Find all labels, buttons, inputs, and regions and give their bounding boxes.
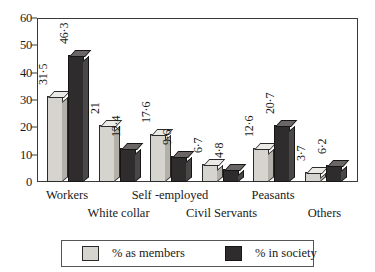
legend-swatch-dark xyxy=(225,246,242,261)
bar-group: 31·546·3 xyxy=(47,18,91,182)
bar-group: 12·620·7 xyxy=(253,18,297,182)
bar-item: 12·4 xyxy=(120,148,144,182)
bar-society xyxy=(68,55,84,182)
category-label: Peasants xyxy=(251,189,294,202)
legend-label: % as members xyxy=(112,247,185,260)
bar-group: 6·74·8 xyxy=(202,18,246,182)
bars-layer: 31·546·32112·417·69·66·74·812·620·73·76·… xyxy=(37,18,358,182)
bar-value-label: 6·7 xyxy=(192,137,204,152)
bar-value-label: 3·7 xyxy=(295,145,307,160)
bar-item: 4·8 xyxy=(223,169,247,182)
bar-value-label: 17·6 xyxy=(140,102,152,123)
bar-item: 6·2 xyxy=(326,165,350,182)
category-label: Civil Servants xyxy=(186,207,257,220)
category-label: Others xyxy=(308,207,341,220)
bar-value-label: 12·4 xyxy=(110,116,122,137)
bar-item: 9·6 xyxy=(171,156,195,182)
bar-members xyxy=(305,172,321,182)
bar-value-label: 46·3 xyxy=(58,23,70,44)
bar-side-face xyxy=(341,166,347,182)
legend-entry: % as members xyxy=(82,246,185,261)
bar-society xyxy=(171,156,187,182)
bar-members xyxy=(253,148,269,182)
bar-side-face xyxy=(83,56,89,182)
bar-side-face xyxy=(186,157,192,182)
bar-group: 2112·4 xyxy=(99,18,143,182)
y-axis: 0102030405060 xyxy=(0,0,37,200)
bar-value-label: 12·6 xyxy=(243,115,255,136)
category-label: White collar xyxy=(87,207,149,220)
bar-side-face xyxy=(238,170,244,182)
bar-chart: 0102030405060 31·546·32112·417·69·66·74·… xyxy=(0,0,375,272)
bar-group: 17·69·6 xyxy=(150,18,194,182)
bar-value-label: 20·7 xyxy=(264,93,276,114)
bar-group: 3·76·2 xyxy=(305,18,349,182)
bar-value-label: 9·6 xyxy=(161,129,173,144)
bar-value-label: 31·5 xyxy=(37,64,49,85)
legend-swatch-light xyxy=(82,246,99,261)
bar-value-label: 6·2 xyxy=(316,139,328,154)
bar-item: 46·3 xyxy=(68,55,92,182)
bar-members xyxy=(47,96,63,182)
chart-legend: % as members% in society xyxy=(61,240,314,267)
bar-society xyxy=(223,169,239,182)
bar-side-face xyxy=(135,149,141,182)
category-label: Self -employed xyxy=(132,189,209,202)
legend-entry: % in society xyxy=(225,246,317,261)
bar-value-label: 4·8 xyxy=(213,142,225,157)
bar-value-label: 21 xyxy=(89,102,101,114)
bar-members xyxy=(202,164,218,182)
bar-society xyxy=(274,125,290,182)
category-axis-labels: WorkersWhite collarSelf -employedCivil S… xyxy=(0,184,375,226)
category-label: Workers xyxy=(46,189,88,202)
legend-label: % in society xyxy=(255,247,317,260)
bar-society xyxy=(326,165,342,182)
bar-society xyxy=(120,148,136,182)
